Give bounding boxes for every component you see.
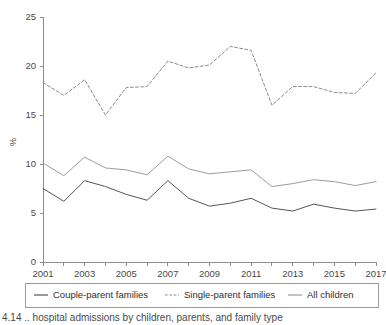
series-line <box>43 156 376 186</box>
y-axis-title: % <box>7 137 18 146</box>
x-axis: 200120032005200720092011201320152017 <box>32 262 386 279</box>
x-tick-label: 2007 <box>157 268 178 279</box>
y-tick-label: 10 <box>25 158 36 169</box>
y-tick-label: 0 <box>31 256 36 267</box>
x-tick-label: 2001 <box>32 268 53 279</box>
legend-label: All children <box>307 289 353 300</box>
x-tick-label: 2013 <box>282 268 303 279</box>
x-tick-label: 2015 <box>324 268 345 279</box>
x-tick-label: 2003 <box>74 268 95 279</box>
x-tick-label: 2017 <box>365 268 386 279</box>
figure-caption: 4.14 .. hospital admissions by children,… <box>2 313 283 323</box>
y-tick-label: 5 <box>31 207 36 218</box>
y-tick-label: 15 <box>25 109 36 120</box>
legend-label: Couple-parent families <box>53 289 148 300</box>
y-tick-label: 25 <box>25 11 36 22</box>
x-tick-label: 2005 <box>116 268 137 279</box>
line-chart: 0510152025 20012003200520072009201120132… <box>0 0 386 313</box>
x-tick-label: 2011 <box>241 268 261 279</box>
series-line <box>43 181 376 211</box>
chart-legend: Couple-parent familiesSingle-parent fami… <box>25 283 378 307</box>
series-layer <box>43 46 376 211</box>
y-axis-label: % <box>7 137 18 146</box>
figure-container: 0510152025 20012003200520072009201120132… <box>0 0 386 325</box>
x-tick-label: 2009 <box>199 268 220 279</box>
figure-caption-strip: 4.14 .. hospital admissions by children,… <box>0 313 386 325</box>
y-tick-label: 20 <box>25 60 36 71</box>
series-line <box>43 46 376 115</box>
y-axis: 0510152025 <box>25 11 43 267</box>
legend-label: Single-parent families <box>184 289 276 300</box>
